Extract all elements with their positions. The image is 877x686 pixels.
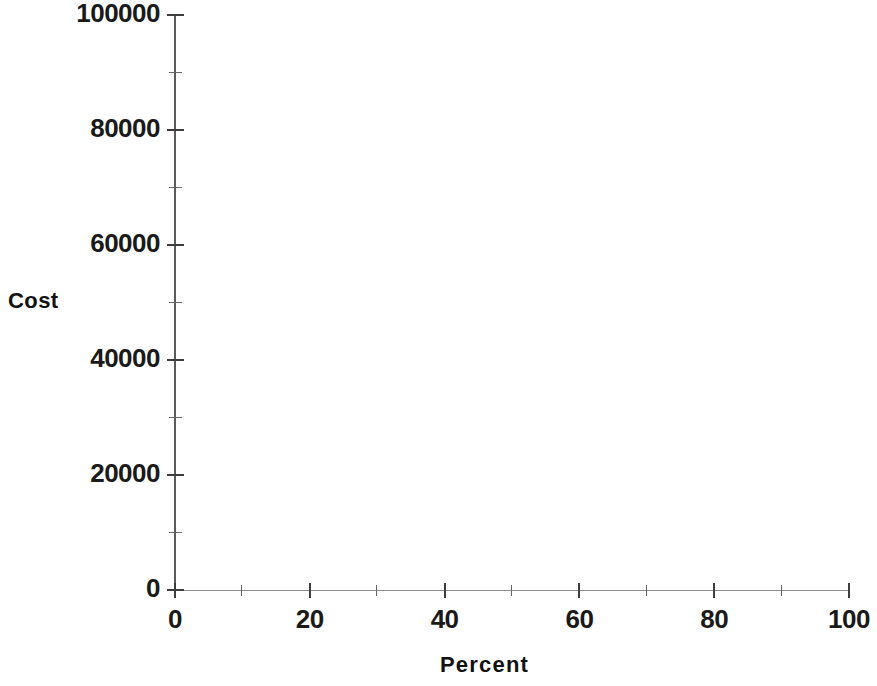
y-axis-tick-label: 80000 <box>0 113 160 144</box>
x-axis-tick-label: 20 <box>250 604 370 635</box>
x-axis-major-tick <box>713 583 715 598</box>
plot-area <box>176 15 849 590</box>
y-axis-tick-label: 0 <box>0 573 160 604</box>
x-axis-minor-tick <box>781 585 782 596</box>
y-axis-major-tick <box>167 359 184 361</box>
y-axis-major-tick <box>167 14 184 16</box>
y-axis-minor-tick <box>169 532 182 533</box>
y-axis-minor-tick <box>169 72 182 73</box>
chart-figure: Cost Percent 020000400006000080000100000… <box>0 0 877 686</box>
y-axis-major-tick <box>167 129 184 131</box>
x-axis-title: Percent <box>0 652 877 678</box>
y-axis-minor-tick <box>169 417 182 418</box>
x-axis-major-tick <box>578 583 580 598</box>
y-axis-minor-tick <box>169 302 182 303</box>
y-axis-tick-label: 40000 <box>0 343 160 374</box>
y-axis-title: Cost <box>8 288 59 314</box>
x-axis-major-tick <box>309 583 311 598</box>
y-axis-minor-tick <box>169 187 182 188</box>
x-axis-tick-label: 40 <box>385 604 505 635</box>
x-axis-minor-tick <box>646 585 647 596</box>
x-axis-minor-tick <box>376 585 377 596</box>
x-axis-minor-tick <box>241 585 242 596</box>
y-axis-major-tick <box>167 474 184 476</box>
y-axis-tick-label: 100000 <box>0 0 160 29</box>
x-axis-tick-label: 100 <box>789 604 877 635</box>
y-axis-major-tick <box>167 244 184 246</box>
x-axis-tick-label: 60 <box>519 604 639 635</box>
x-axis-minor-tick <box>511 585 512 596</box>
x-axis-major-tick <box>444 583 446 598</box>
x-axis-tick-label: 80 <box>654 604 774 635</box>
x-axis-major-tick <box>848 583 850 598</box>
x-axis-tick-label: 0 <box>115 604 235 635</box>
y-axis-tick-label: 60000 <box>0 228 160 259</box>
y-axis-tick-label: 20000 <box>0 458 160 489</box>
x-axis-major-tick <box>174 583 176 598</box>
